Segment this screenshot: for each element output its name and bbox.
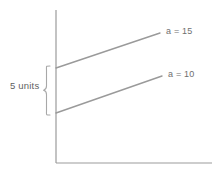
series-label-lower: a = 10: [168, 69, 194, 79]
series-label-upper: a = 15: [166, 26, 192, 36]
series-line-upper: [56, 33, 160, 68]
brace-5-units: [44, 66, 51, 115]
series-line-lower: [56, 76, 162, 113]
line-chart-figure: a = 15 a = 10 5 units: [0, 0, 222, 173]
brace-label-5-units: 5 units: [10, 80, 39, 91]
